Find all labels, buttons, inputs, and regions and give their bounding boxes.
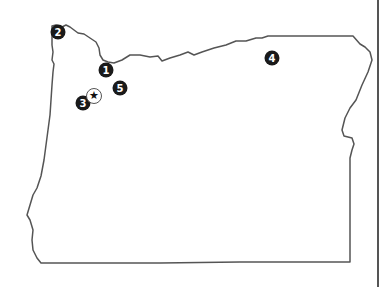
map-marker-1[interactable]: 1 [99, 63, 114, 78]
frame-divider [377, 0, 379, 287]
capital-star-icon[interactable]: ★ [86, 88, 102, 104]
map-marker-4[interactable]: 4 [265, 51, 280, 66]
oregon-border [27, 25, 372, 263]
map-marker-2[interactable]: 2 [51, 25, 66, 40]
state-outline [0, 0, 392, 287]
map-marker-5[interactable]: 5 [113, 81, 128, 96]
